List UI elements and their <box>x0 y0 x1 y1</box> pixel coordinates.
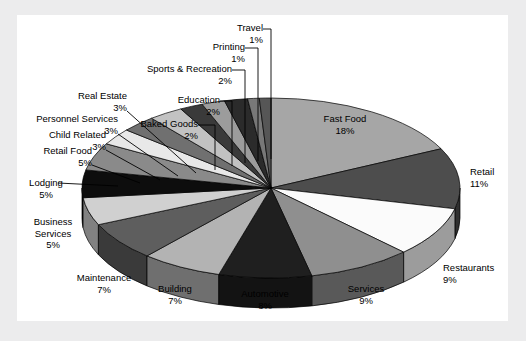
label-retail: Retail 11% <box>470 166 524 189</box>
label-education: Education 2% <box>140 94 220 117</box>
label-restaurants: Restaurants 9% <box>443 262 521 285</box>
label-baked-goods: Baked Goods 2% <box>118 118 198 141</box>
label-printing: Printing 1% <box>148 41 245 64</box>
label-building: Building 7% <box>142 283 208 306</box>
label-maintenance: Maintenance 7% <box>60 272 148 295</box>
chart-figure: Travel 1% Printing 1% Sports & Recreatio… <box>0 0 526 341</box>
label-retail-food: Retail Food 5% <box>16 145 92 168</box>
label-business-services: Business Services 5% <box>18 216 88 251</box>
label-lodging: Lodging 5% <box>18 177 74 200</box>
label-services: Services 9% <box>333 283 399 306</box>
label-automotive: Automotive 8% <box>224 288 306 311</box>
label-sports-recreation: Sports & Recreation 2% <box>110 63 232 86</box>
label-real-estate: Real Estate 3% <box>47 90 127 113</box>
label-fast-food: Fast Food 18% <box>305 113 385 136</box>
